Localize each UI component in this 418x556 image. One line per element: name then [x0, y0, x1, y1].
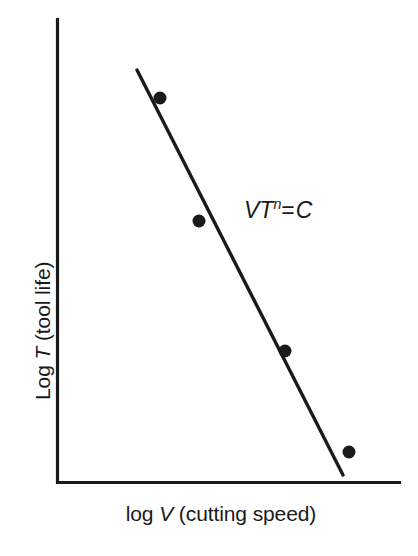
trend-line	[137, 70, 343, 475]
equation-equals-sign: =	[281, 197, 293, 223]
x-axis-label-suffix: (cutting speed)	[173, 502, 316, 525]
data-point-marker	[343, 446, 356, 459]
equation-variable-v: V	[244, 197, 259, 223]
data-point-marker	[154, 92, 167, 105]
equation-constant-c: C	[296, 197, 313, 223]
taylor-equation-annotation: VTn=C	[244, 199, 312, 222]
equation-variable-t: T	[259, 197, 273, 223]
plot-canvas	[0, 0, 418, 556]
data-point-marker	[279, 345, 292, 358]
x-axis-label-variable: V	[159, 502, 173, 525]
data-point-marker	[193, 215, 206, 228]
x-axis-label: log V (cutting speed)	[0, 503, 418, 524]
x-axis-label-prefix: log	[126, 502, 159, 525]
tool-life-chart: VTn=C Log T (tool life) log V (cutting s…	[0, 0, 418, 556]
